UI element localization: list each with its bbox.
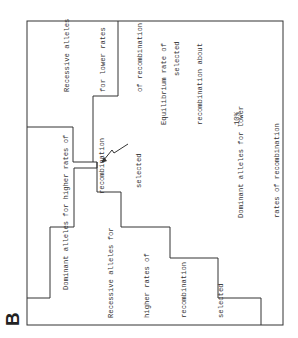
region-label-dominant-lower: Dominant alleles for lower rates of reco… bbox=[210, 106, 298, 218]
panel-label: B bbox=[2, 312, 24, 326]
region-label-recessive-higher: Recessive alleles for higher rates of re… bbox=[80, 227, 240, 318]
